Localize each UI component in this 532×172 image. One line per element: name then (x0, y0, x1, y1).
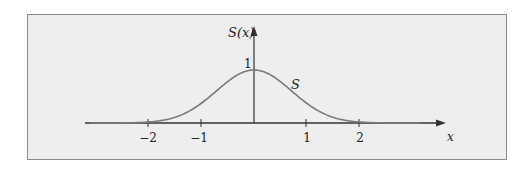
curve-label: S (291, 77, 300, 92)
x-tick-label-2: 2 (356, 131, 364, 145)
x-tick-label-m1: −1 (190, 131, 208, 145)
curve-s (90, 70, 420, 123)
x-tick-label-1: 1 (303, 131, 311, 145)
y-axis-label: S(x) (228, 25, 254, 40)
bell-curve-plot: S(x) 1 S −2 −1 1 2 x (0, 0, 532, 172)
x-tick-label-m2: −2 (139, 131, 157, 145)
x-axis-label: x (447, 130, 454, 144)
x-axis-arrow-icon (436, 120, 446, 127)
y-tick-label-1: 1 (244, 57, 252, 71)
